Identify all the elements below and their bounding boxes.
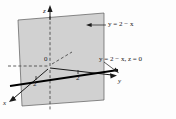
y-axis-arrowhead [110, 73, 117, 78]
z-axis-label: z [43, 8, 46, 15]
trace-equation-label: y = 2 − x, z = 0 [99, 56, 142, 63]
plane-equation-label: y = 2 − x [108, 21, 133, 28]
figure-graphics [0, 0, 176, 119]
z-axis-arrowhead [47, 5, 52, 12]
x-axis-label: x [3, 100, 6, 107]
tick-label-y-2: 2 [76, 75, 80, 82]
y-axis-label: y [118, 78, 121, 85]
origin-label: 0 [44, 56, 48, 63]
shaded-plane [18, 13, 104, 106]
trace-label-leader-arrowhead [113, 67, 119, 73]
figure-canvas: z y x 0 2 2 y = 2 − x y = 2 − x, z = 0 [0, 0, 176, 119]
tick-label-x-2: 2 [33, 81, 37, 88]
